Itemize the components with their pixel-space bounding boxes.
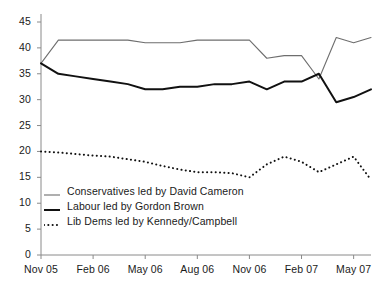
y-axis-tick-label: 45 (0, 15, 31, 27)
x-axis-tick-label: Aug 06 (167, 263, 227, 275)
y-axis-tick-label: 5 (0, 222, 31, 234)
series-line-1 (41, 63, 371, 102)
legend-item-label: Labour led by Gordon Brown (67, 200, 204, 212)
x-axis-tick-label: Feb 07 (272, 263, 332, 275)
plot-area (0, 0, 374, 292)
y-axis-tick-label: 40 (0, 41, 31, 53)
y-axis-tick-label: 10 (0, 196, 31, 208)
x-axis-tick-label: May 06 (115, 263, 175, 275)
x-axis-tick-label: Nov 06 (219, 263, 279, 275)
y-axis-tick-label: 25 (0, 119, 31, 131)
chart-legend: Conservatives led by David CameronLabour… (44, 183, 244, 228)
x-axis-tick-label: Nov 05 (11, 263, 71, 275)
legend-item-label: Lib Dems led by Kennedy/Campbell (67, 215, 237, 227)
series-line-2 (41, 151, 371, 179)
y-axis-tick-label: 30 (0, 93, 31, 105)
y-axis-tick-label: 0 (0, 248, 31, 260)
series-line-0 (41, 38, 371, 79)
y-axis-tick-label: 15 (0, 170, 31, 182)
legend-swatch-icon (44, 216, 60, 226)
legend-swatch-icon (44, 201, 60, 211)
y-axis-tick-label: 35 (0, 67, 31, 79)
legend-item: Conservatives led by David Cameron (44, 183, 244, 198)
poll-line-chart: 051015202530354045Nov 05Feb 06May 06Aug … (0, 0, 374, 292)
legend-swatch-icon (44, 186, 60, 196)
legend-item-label: Conservatives led by David Cameron (67, 185, 244, 197)
y-axis-tick-label: 20 (0, 144, 31, 156)
legend-item: Labour led by Gordon Brown (44, 198, 244, 213)
legend-item: Lib Dems led by Kennedy/Campbell (44, 213, 244, 228)
x-axis-tick-label: May 07 (324, 263, 374, 275)
x-axis-tick-label: Feb 06 (63, 263, 123, 275)
